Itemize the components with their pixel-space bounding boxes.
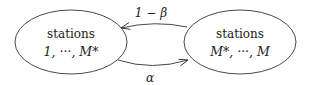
edge-label-bottom: α bbox=[146, 71, 154, 85]
ellipse-right bbox=[184, 10, 296, 74]
node-left: stations 1, ···, M* bbox=[15, 10, 127, 74]
node-left-range: 1, ···, M* bbox=[44, 44, 100, 59]
node-left-title: stations bbox=[47, 27, 95, 41]
diagram-canvas: stations 1, ···, M* stations M*, ···, M … bbox=[0, 0, 310, 85]
edge-left-to-right-arrow bbox=[118, 60, 188, 66]
edge-label-top: 1 − β bbox=[135, 6, 167, 20]
edge-right-to-left-arrow bbox=[121, 24, 187, 28]
node-right: stations M*, ···, M bbox=[184, 10, 296, 74]
node-right-title: stations bbox=[216, 27, 264, 41]
node-right-range: M*, ···, M bbox=[209, 44, 271, 59]
ellipse-left bbox=[15, 10, 127, 74]
